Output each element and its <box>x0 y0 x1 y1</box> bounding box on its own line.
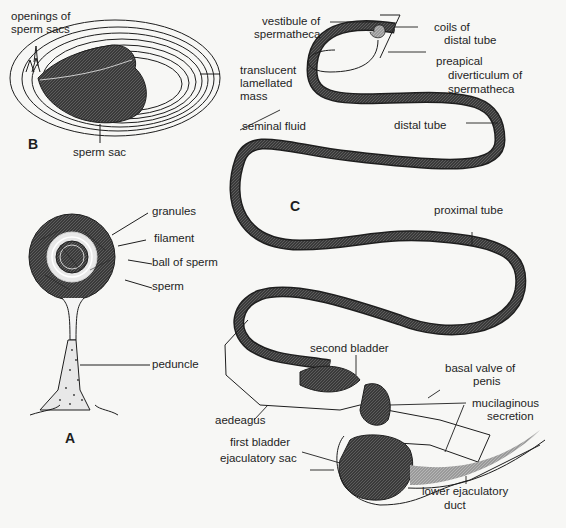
label-seminal-fluid: seminal fluid <box>242 120 306 133</box>
label-lower-ejaculatory-duct-2: duct <box>444 499 466 512</box>
label-basal-valve-of-penis-2: penis <box>473 375 501 388</box>
label-granules: granules <box>152 205 196 218</box>
label-sperm-sac: sperm sac <box>73 146 126 159</box>
label-mucilaginous-secretion-1: mucilaginous <box>472 397 539 410</box>
panel-b-drawing <box>10 20 220 143</box>
label-filament: filament <box>154 232 194 245</box>
label-basal-valve-of-penis-1: basal valve of <box>445 362 515 375</box>
label-distal-tube: distal tube <box>394 119 446 132</box>
label-openings-of-sperm-sacs-1: openings of <box>11 10 70 23</box>
panel-letter-c: C <box>290 198 300 214</box>
panel-letter-b: B <box>28 136 38 152</box>
panel-a-drawing <box>29 213 152 415</box>
spermatophore-diagram: openings of sperm sacs translucent lamel… <box>0 0 566 528</box>
label-vestibule-of-spermatheca-2: spermatheca <box>254 28 320 41</box>
label-ball-of-sperm: ball of sperm <box>152 256 218 269</box>
label-preapical-diverticulum-1: preapical <box>436 55 483 68</box>
label-preapical-diverticulum-2: diverticulum of <box>448 69 522 82</box>
label-coils-of-distal-tube-2: distal tube <box>444 34 496 47</box>
label-translucent-lamellated-mass-3: mass <box>240 90 267 103</box>
label-translucent-lamellated-mass-2: lamellated <box>240 77 292 90</box>
label-first-bladder: first bladder <box>230 436 290 449</box>
label-mucilaginous-secretion-2: secretion <box>487 410 534 423</box>
label-proximal-tube: proximal tube <box>434 204 503 217</box>
label-sperm: sperm <box>152 280 184 293</box>
label-preapical-diverticulum-3: spermatheca <box>448 83 514 96</box>
label-peduncle: peduncle <box>152 358 199 371</box>
label-second-bladder: second bladder <box>310 342 389 355</box>
panel-letter-a: A <box>65 430 75 446</box>
label-ejaculatory-sac: ejaculatory sac <box>220 452 297 465</box>
label-aedeagus: aedeagus <box>215 414 266 427</box>
label-lower-ejaculatory-duct-1: lower ejaculatory <box>422 485 508 498</box>
label-translucent-lamellated-mass-1: translucent <box>240 64 296 77</box>
label-openings-of-sperm-sacs-2: sperm sacs <box>11 23 70 36</box>
label-vestibule-of-spermatheca-1: vestibule of <box>262 15 320 28</box>
label-coils-of-distal-tube-1: coils of <box>434 21 470 34</box>
